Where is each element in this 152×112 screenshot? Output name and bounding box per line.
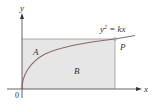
y-axis-label: y bbox=[19, 3, 24, 13]
x-axis-label: x bbox=[143, 84, 148, 94]
point-p-marker bbox=[113, 37, 117, 41]
equation-rhs: = kx bbox=[107, 24, 126, 34]
diagram-canvas: y x 0 A B P y2 = kx bbox=[0, 0, 152, 112]
region-b-label: B bbox=[74, 66, 80, 76]
curve-equation: y2 = kx bbox=[99, 24, 126, 35]
x-axis-arrow-icon bbox=[136, 87, 142, 91]
region-a-label: A bbox=[32, 47, 39, 57]
origin-label: 0 bbox=[15, 91, 19, 100]
point-p-label: P bbox=[119, 42, 126, 52]
y-axis-arrow-icon bbox=[20, 13, 24, 19]
